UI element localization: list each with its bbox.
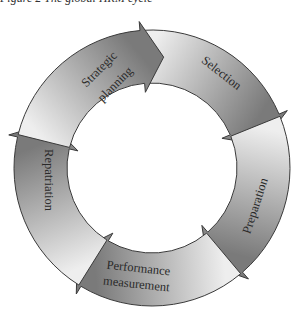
cycle-arrow-repatriation xyxy=(9,123,107,285)
label-repatriation: Repatriation xyxy=(42,149,56,212)
hrm-cycle-diagram: Strategic planning Selection Preparation… xyxy=(0,0,298,318)
